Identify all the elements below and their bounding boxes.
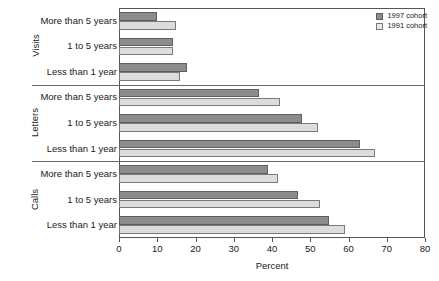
legend-swatch-icon-1997 <box>376 13 383 20</box>
x-axis-tick-label: 30 <box>219 243 249 254</box>
x-axis-tick-label: 70 <box>372 243 402 254</box>
bar-1991 <box>119 225 345 234</box>
x-axis-tick-label: 0 <box>104 243 134 254</box>
bar-1991 <box>119 149 375 158</box>
legend-item-1991: 1991 cohort <box>376 21 427 31</box>
x-axis-tick <box>157 238 158 242</box>
x-axis-tick <box>119 238 120 242</box>
x-axis-tick <box>310 238 311 242</box>
x-axis-tick <box>234 238 235 242</box>
x-axis-tick <box>387 238 388 242</box>
x-axis-tick-label: 10 <box>142 243 172 254</box>
chart-legend: 1997 cohort 1991 cohort <box>376 11 427 31</box>
category-label: Less than 1 year <box>13 66 117 77</box>
x-axis-tick <box>272 238 273 242</box>
bar-chart: More than 5 years1 to 5 yearsLess than 1… <box>0 0 439 281</box>
x-axis-tick-label: 20 <box>181 243 211 254</box>
category-label: Less than 1 year <box>13 143 117 154</box>
bar-1997 <box>119 63 187 72</box>
bar-1991 <box>119 123 318 132</box>
group-label-text: Visits <box>30 35 41 58</box>
category-label: More than 5 years <box>13 168 117 179</box>
group-label-letters: Letters <box>0 117 70 128</box>
bar-1991 <box>119 174 278 183</box>
x-axis-tick-label: 80 <box>410 243 439 254</box>
x-axis-title: Percent <box>119 260 425 271</box>
bar-1991 <box>119 200 320 209</box>
legend-label-1997: 1997 cohort <box>387 11 427 21</box>
bar-1991 <box>119 98 280 107</box>
group-separator <box>32 85 425 86</box>
bar-1997 <box>119 191 298 200</box>
legend-label-1991: 1991 cohort <box>387 21 427 31</box>
bar-1997 <box>119 114 302 123</box>
x-axis-tick <box>425 238 426 242</box>
bar-1997 <box>119 12 157 21</box>
x-axis-tick-label: 50 <box>295 243 325 254</box>
x-axis-tick-label: 60 <box>334 243 364 254</box>
group-label-calls: Calls <box>0 194 70 205</box>
group-label-visits: Visits <box>0 40 70 51</box>
bar-1991 <box>119 72 180 81</box>
category-label: More than 5 years <box>13 15 117 26</box>
bar-1997 <box>119 140 360 149</box>
category-label: More than 5 years <box>13 91 117 102</box>
legend-swatch-icon-1991 <box>376 23 383 30</box>
group-label-text: Calls <box>30 189 41 210</box>
bar-1991 <box>119 47 173 56</box>
bar-1991 <box>119 21 176 30</box>
x-axis-tick-label: 40 <box>257 243 287 254</box>
bar-1997 <box>119 165 268 174</box>
category-label: Less than 1 year <box>13 219 117 230</box>
legend-item-1997: 1997 cohort <box>376 11 427 21</box>
group-separator <box>32 161 425 162</box>
bar-1997 <box>119 89 259 98</box>
bar-1997 <box>119 38 173 47</box>
group-label-text: Letters <box>29 108 40 137</box>
bar-1997 <box>119 216 329 225</box>
x-axis-tick <box>196 238 197 242</box>
x-axis-tick <box>349 238 350 242</box>
